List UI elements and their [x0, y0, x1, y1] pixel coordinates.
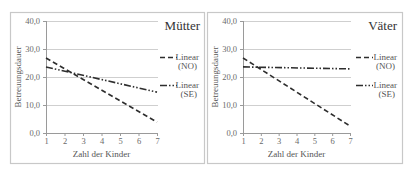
y-tick-label: 30,0 — [222, 44, 237, 54]
y-tick-label: 40,0 — [222, 16, 237, 26]
chart-panel-muetter: 0,010,020,030,040,01234567Zahl der Kinde… — [11, 13, 205, 164]
x-tick-label: 2 — [63, 136, 67, 146]
y-tick-label: 10,0 — [25, 100, 40, 110]
y-axis-label: Betreuungsdauer — [13, 47, 23, 108]
legend-label-abbrev: (SE) — [181, 89, 198, 99]
y-axis-label: Betreuungsdauer — [210, 47, 220, 108]
chart-title: Mütter — [165, 18, 201, 33]
x-tick-label: 6 — [331, 136, 335, 146]
x-tick-label: 1 — [241, 136, 245, 146]
chart-canvas: 0,010,020,030,040,01234567Zahl der Kinde… — [0, 0, 412, 175]
x-tick-label: 2 — [259, 136, 263, 146]
x-tick-label: 1 — [44, 136, 48, 146]
x-axis-label: Zahl der Kinder — [268, 149, 325, 159]
y-tick-label: 0,0 — [226, 128, 237, 138]
chart-panel-vaeter: 0,010,020,030,040,01234567Zahl der Kinde… — [208, 13, 403, 164]
x-tick-label: 3 — [277, 136, 281, 146]
x-tick-label: 5 — [313, 136, 317, 146]
x-tick-label: 7 — [348, 136, 352, 146]
y-tick-label: 20,0 — [25, 72, 40, 82]
x-tick-label: 3 — [81, 136, 85, 146]
x-tick-label: 5 — [118, 136, 122, 146]
x-axis-label: Zahl der Kinder — [73, 149, 130, 159]
x-tick-label: 7 — [155, 136, 159, 146]
y-tick-label: 10,0 — [222, 100, 237, 110]
chart-title: Väter — [368, 18, 398, 33]
y-tick-label: 20,0 — [222, 72, 237, 82]
legend-label-abbrev: (SE) — [379, 89, 396, 99]
legend-label-abbrev: (NO) — [178, 61, 197, 71]
y-tick-label: 0,0 — [29, 128, 40, 138]
x-tick-label: 6 — [137, 136, 141, 146]
legend-label-abbrev: (NO) — [376, 61, 395, 71]
y-tick-label: 40,0 — [25, 16, 40, 26]
y-tick-label: 30,0 — [25, 44, 40, 54]
